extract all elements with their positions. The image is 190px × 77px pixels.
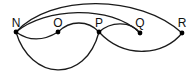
graph-diagram: N O P Q R — [0, 0, 190, 77]
node-r — [180, 31, 185, 36]
node-n — [14, 30, 19, 35]
node-label-r: R — [178, 16, 187, 30]
node-label-o: O — [53, 16, 62, 30]
graph-svg: N O P Q R — [0, 0, 190, 77]
node-o — [56, 30, 61, 35]
node-q — [138, 31, 143, 36]
edge-o-p — [58, 23, 99, 32]
node-label-p: P — [95, 16, 103, 30]
node-p — [97, 30, 102, 35]
edge-n-o — [16, 32, 58, 39]
node-label-q: Q — [135, 16, 144, 30]
node-label-n: N — [12, 16, 21, 30]
